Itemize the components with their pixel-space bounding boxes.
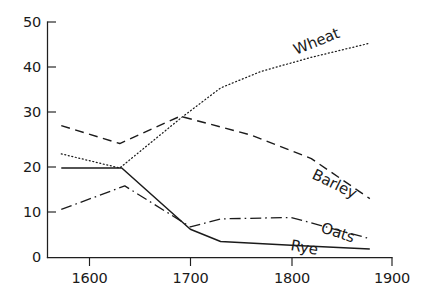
line-chart: 50 40 30 20 10 0 1600 1700 1800 1900 Whe… — [0, 0, 429, 298]
series-label-barley: Barley — [309, 165, 360, 202]
series-label-wheat: Wheat — [291, 24, 343, 59]
x-tick-label-1600: 1600 — [71, 270, 107, 286]
y-tick-label-40: 40 — [23, 59, 41, 75]
y-tick-label-30: 30 — [23, 104, 41, 120]
y-tick-label-50: 50 — [23, 14, 41, 30]
x-tick-label-1900: 1900 — [374, 270, 410, 286]
y-tick-label-0: 0 — [32, 249, 41, 265]
series-label-oats: Oats — [319, 219, 357, 247]
y-tick-label-20: 20 — [23, 159, 41, 175]
x-tick-label-1700: 1700 — [172, 270, 208, 286]
series-line-wheat — [61, 43, 370, 168]
chart-canvas: 50 40 30 20 10 0 1600 1700 1800 1900 Whe… — [0, 0, 429, 298]
series-label-rye: Rye — [289, 236, 319, 258]
x-tick-label-1800: 1800 — [274, 270, 310, 286]
y-tick-label-10: 10 — [23, 204, 41, 220]
